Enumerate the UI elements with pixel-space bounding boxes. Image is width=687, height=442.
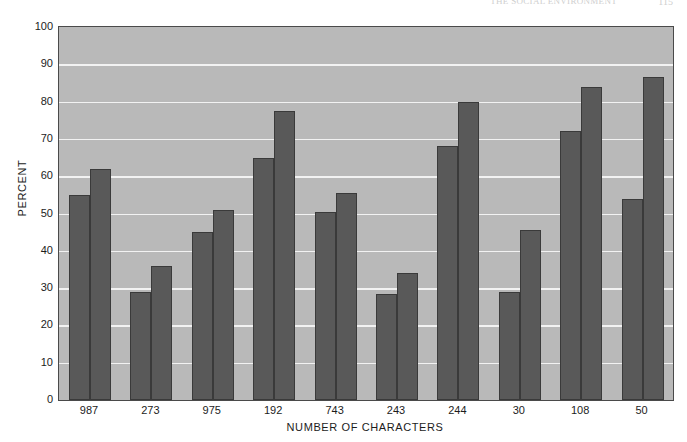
bar-group	[253, 27, 295, 400]
bar-group	[192, 27, 234, 400]
x-tick-label: 50	[612, 404, 672, 416]
bar-group	[560, 27, 602, 400]
x-axis-label: NUMBER OF CHARACTERS	[58, 421, 672, 433]
bar	[151, 266, 172, 400]
bar	[520, 230, 541, 400]
x-axis-tick-labels: 9872739751927432432443010850	[58, 404, 672, 420]
bar-group	[69, 27, 111, 400]
bar-chart-figure: 0102030405060708090100 PERCENT 987273975…	[0, 0, 687, 442]
y-tick-label: 20	[3, 318, 53, 330]
y-tick-label: 30	[3, 281, 53, 293]
x-tick-label: 743	[305, 404, 365, 416]
x-tick-label: 108	[550, 404, 610, 416]
y-tick-label: 40	[3, 244, 53, 256]
bar-group	[622, 27, 664, 400]
y-tick-label: 70	[3, 132, 53, 144]
bars-layer	[59, 27, 673, 400]
x-tick-label: 30	[489, 404, 549, 416]
bar	[253, 158, 274, 400]
bar	[90, 169, 111, 400]
x-tick-label: 244	[427, 404, 487, 416]
bar	[130, 292, 151, 400]
bar	[458, 102, 479, 400]
bar-group	[376, 27, 418, 400]
y-tick-label: 100	[3, 20, 53, 32]
y-tick-label: 10	[3, 356, 53, 368]
x-tick-label: 273	[120, 404, 180, 416]
bar	[499, 292, 520, 400]
bar-group	[130, 27, 172, 400]
bar	[376, 294, 397, 400]
y-tick-label: 90	[3, 57, 53, 69]
x-tick-label: 975	[182, 404, 242, 416]
y-tick-label: 60	[3, 169, 53, 181]
bar	[622, 199, 643, 400]
bar	[437, 146, 458, 400]
y-tick-label: 0	[3, 393, 53, 405]
y-axis-label: PERCENT	[16, 138, 28, 238]
x-tick-label: 243	[366, 404, 426, 416]
bar	[274, 111, 295, 400]
bar-group	[315, 27, 357, 400]
bar	[315, 212, 336, 400]
bar	[192, 232, 213, 400]
y-tick-label: 80	[3, 95, 53, 107]
bar	[336, 193, 357, 400]
bar-group	[437, 27, 479, 400]
bar	[643, 77, 664, 400]
bar-group	[499, 27, 541, 400]
bar	[397, 273, 418, 400]
x-tick-label: 192	[243, 404, 303, 416]
x-tick-label: 987	[59, 404, 119, 416]
bar	[560, 131, 581, 400]
plot-area	[58, 26, 674, 401]
bar	[213, 210, 234, 400]
bar	[69, 195, 90, 400]
y-tick-label: 50	[3, 207, 53, 219]
bar	[581, 87, 602, 400]
